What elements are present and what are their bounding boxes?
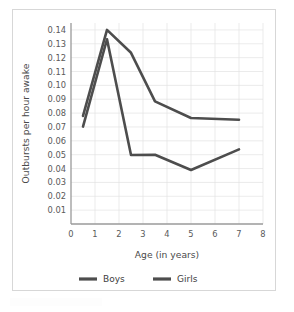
x-tick-label: 7 [236, 229, 241, 239]
data-series-group [83, 30, 239, 170]
x-axis-label: Age (in years) [135, 249, 199, 260]
y-tick-label: 0.12 [48, 53, 66, 63]
y-tick-label: 0.09 [48, 94, 66, 104]
y-tick-label: 0.03 [48, 177, 66, 187]
y-tick-label: 0.08 [48, 108, 66, 118]
y-tick-label: 0.01 [48, 205, 66, 215]
y-axis-label: Outbursts per hour awake [20, 63, 31, 183]
line-chart: 0.010.020.030.040.050.060.070.080.090.10… [13, 10, 275, 290]
caption-strip-artifact [10, 298, 102, 306]
x-tick-label: 0 [68, 229, 73, 239]
y-tick-label: 0.04 [48, 164, 66, 174]
x-tick-label: 8 [260, 229, 265, 239]
x-tick-label: 1 [92, 229, 97, 239]
y-tick-label: 0.06 [48, 136, 66, 146]
legend-label-boys: Boys [103, 274, 125, 284]
x-tick-label: 4 [164, 229, 169, 239]
x-tick-label: 6 [212, 229, 217, 239]
x-tick-label: 3 [140, 229, 145, 239]
y-tick-label: 0.11 [48, 67, 66, 77]
chart-legend: BoysGirls [79, 274, 198, 284]
y-tick-label: 0.14 [48, 25, 66, 35]
x-tick-label: 2 [116, 229, 121, 239]
legend-label-girls: Girls [177, 274, 198, 284]
x-tick-labels: 012345678 [68, 229, 265, 239]
y-tick-label: 0.10 [48, 80, 66, 90]
y-tick-label: 0.05 [48, 150, 66, 160]
y-tick-label: 0.02 [48, 191, 66, 201]
y-tick-labels: 0.010.020.030.040.050.060.070.080.090.10… [48, 25, 66, 215]
y-tick-label: 0.07 [48, 122, 66, 132]
figure-frame: 0.010.020.030.040.050.060.070.080.090.10… [12, 9, 276, 291]
y-tick-label: 0.13 [48, 39, 66, 49]
x-tick-label: 5 [188, 229, 193, 239]
